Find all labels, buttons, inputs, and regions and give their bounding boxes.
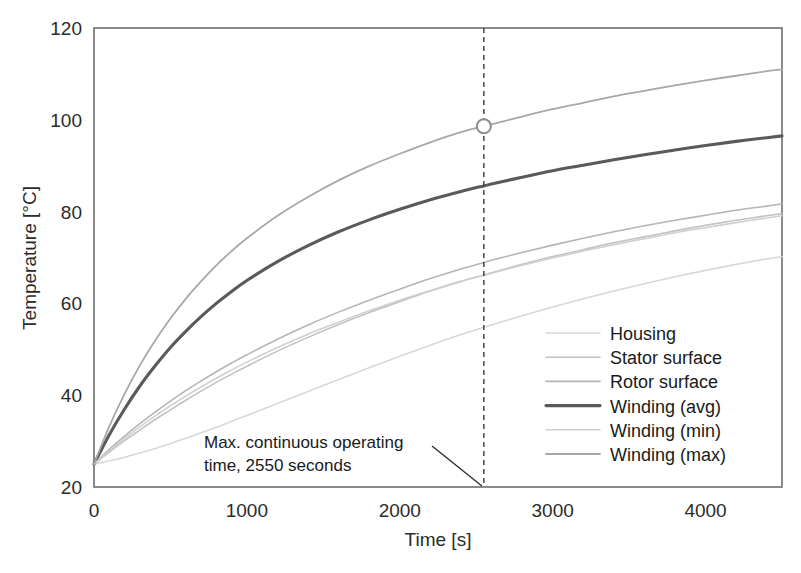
y-tick-label: 40 bbox=[61, 385, 82, 406]
y-tick-label: 100 bbox=[50, 110, 82, 131]
x-tick-label: 2000 bbox=[379, 500, 421, 521]
x-tick-label: 3000 bbox=[532, 500, 574, 521]
y-tick-label: 120 bbox=[50, 18, 82, 39]
legend-label-winding-min: Winding (min) bbox=[610, 421, 721, 441]
x-tick-label: 4000 bbox=[684, 500, 726, 521]
x-tick-label: 1000 bbox=[226, 500, 268, 521]
legend-label-winding-max: Winding (max) bbox=[610, 445, 726, 465]
y-tick-label: 20 bbox=[61, 477, 82, 498]
chart-svg: 20406080100120 01000200030004000 Tempera… bbox=[0, 0, 801, 573]
operating-point-marker bbox=[477, 119, 491, 133]
x-tick-label: 0 bbox=[89, 500, 100, 521]
y-axis-title: Temperature [°C] bbox=[19, 186, 40, 330]
annotation-text-line2: time, 2550 seconds bbox=[204, 456, 351, 475]
legend-label-housing: Housing bbox=[610, 324, 676, 344]
y-tick-label: 60 bbox=[61, 293, 82, 314]
temperature-vs-time-chart: 20406080100120 01000200030004000 Tempera… bbox=[0, 0, 801, 573]
legend-label-winding-avg: Winding (avg) bbox=[610, 397, 721, 417]
legend-label-stator-surface: Stator surface bbox=[610, 348, 722, 368]
x-axis-title: Time [s] bbox=[405, 529, 472, 550]
annotation-text-line1: Max. continuous operating bbox=[204, 433, 403, 452]
y-tick-label: 80 bbox=[61, 202, 82, 223]
legend-label-rotor-surface: Rotor surface bbox=[610, 372, 718, 392]
